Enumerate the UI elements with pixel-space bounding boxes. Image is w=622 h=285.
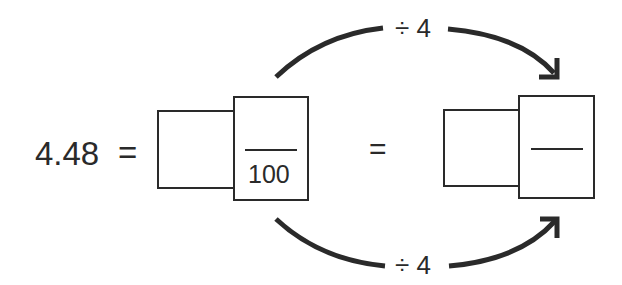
- top-division-label: ÷ 4: [395, 15, 431, 41]
- equals-sign-2: =: [369, 134, 387, 164]
- left-whole-number-box[interactable]: [157, 110, 235, 189]
- left-fraction-box[interactable]: 100: [233, 96, 309, 201]
- bottom-arc-right: [449, 221, 555, 266]
- left-denominator: 100: [248, 162, 290, 187]
- top-arc-left: [276, 28, 383, 77]
- right-fraction-bar: [531, 148, 583, 150]
- bottom-division-label: ÷ 4: [395, 252, 431, 278]
- left-fraction-bar: [245, 149, 297, 151]
- right-fraction-box[interactable]: [518, 95, 595, 199]
- bottom-arc-left: [276, 219, 385, 266]
- right-whole-number-box[interactable]: [443, 109, 520, 187]
- decimal-value: 4.48: [35, 137, 99, 170]
- equals-sign-1: =: [118, 136, 137, 169]
- top-arc-right: [448, 29, 554, 73]
